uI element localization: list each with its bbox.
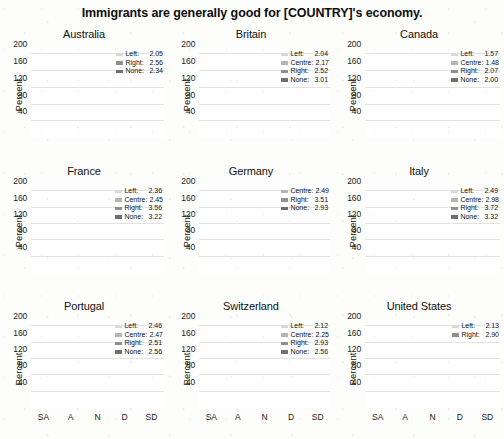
legend-item-none: None:2.56	[281, 348, 329, 357]
y-axis-tick: 160	[181, 328, 195, 338]
panel-title: Australia	[0, 28, 168, 40]
legend-item-centre: Centre:2.17	[281, 59, 329, 68]
legend-swatch-centre	[451, 61, 458, 65]
legend-value: 2.04	[314, 50, 328, 59]
legend-item-none: None:2.93	[281, 204, 329, 213]
legend-item-left: Left:2.13	[452, 322, 499, 331]
legend-item-none: None:2.56	[115, 348, 163, 357]
legend-value: 2.36	[148, 187, 162, 196]
y-axis-tick: 120	[347, 73, 361, 83]
legend-item-right: Right:2.56	[116, 59, 163, 68]
legend-swatch-left	[451, 190, 458, 194]
y-axis-tick: 80	[186, 360, 195, 370]
legend-item-right: Right:3.72	[451, 204, 499, 213]
legend-value: 2.56	[149, 59, 163, 68]
legend-label: Centre:	[124, 196, 147, 205]
y-axis-tick: 80	[18, 90, 27, 100]
legend-swatch-left	[452, 325, 459, 329]
legend-label: Right:	[461, 331, 483, 340]
legend-item-none: None:2.00	[451, 76, 499, 85]
y-axis-tick: 160	[347, 56, 361, 66]
y-axis-tick: 200	[181, 311, 195, 321]
legend-value: 2.17	[315, 59, 329, 68]
legend-label: Left:	[461, 322, 483, 331]
x-axis-tick: SD	[308, 412, 327, 422]
legend: Left:2.04Centre:2.17Right:2.52None:3.01	[281, 50, 329, 84]
y-axis-tick: 200	[347, 311, 361, 321]
legend-value: 2.05	[149, 50, 163, 59]
legend-item-centre: Centre:2.49	[281, 187, 329, 196]
y-axis-tick: 120	[347, 209, 361, 219]
legend-value: 2.46	[148, 322, 162, 331]
legend-item-none: None:2.34	[116, 67, 163, 76]
legend-swatch-centre	[115, 198, 122, 202]
panel-britain: BritainPercent4080120160200SAANDSDLeft:2…	[168, 26, 334, 163]
legend-swatch-right	[115, 342, 122, 346]
legend-label: Right:	[460, 204, 482, 213]
legend-label: Left:	[125, 50, 147, 59]
legend-label: Right:	[290, 339, 312, 348]
legend-label: Centre:	[460, 59, 483, 68]
y-axis-tick: 160	[181, 56, 195, 66]
legend-value: 2.49	[315, 187, 329, 196]
panel-france: FrancePercent4080120160200SAANDSDLeft:2.…	[0, 163, 168, 298]
legend-swatch-left	[451, 53, 458, 57]
legend-value: 3.22	[148, 213, 162, 222]
x-axis-tick: SA	[202, 412, 221, 422]
y-axis-tick: 200	[13, 176, 27, 186]
legend-swatch-centre	[281, 333, 288, 337]
legend-label: Left:	[290, 50, 312, 59]
panel-germany: GermanyPercent4080120160200SAANDSDCentre…	[168, 163, 334, 298]
x-axis-tick: SA	[368, 412, 387, 422]
y-axis-tick: 160	[181, 193, 195, 203]
legend-label: None:	[124, 348, 146, 357]
legend-swatch-right	[451, 70, 458, 74]
legend-item-left: Left:2.05	[116, 50, 163, 59]
y-axis-tick: 40	[186, 377, 195, 387]
y-axis-tick: 120	[13, 344, 27, 354]
x-axis-tick: N	[255, 412, 274, 422]
legend-swatch-none	[116, 70, 123, 74]
legend-item-right: Right:2.52	[281, 67, 329, 76]
legend-label: Right:	[125, 59, 147, 68]
legend-swatch-none	[281, 350, 288, 354]
figure-title: Immigrants are generally good for [COUNT…	[0, 6, 504, 20]
panel-switzerland: SwitzerlandPercent4080120160200SAANDSDLe…	[168, 298, 334, 439]
legend-value: 2.56	[148, 348, 162, 357]
legend-value: 2.34	[149, 67, 163, 76]
x-axis: SAANDSD	[199, 412, 330, 422]
legend-swatch-centre	[281, 190, 288, 194]
y-axis-tick: 120	[13, 73, 27, 83]
y-axis-tick: 200	[13, 39, 27, 49]
legend-item-none: None:3.22	[115, 213, 163, 222]
x-axis-tick: N	[423, 412, 442, 422]
y-axis-tick: 40	[18, 377, 27, 387]
panel-portugal: PortugalPercent4080120160200SAANDSDLeft:…	[0, 298, 168, 439]
y-axis-tick: 200	[181, 39, 195, 49]
legend-value: 1.48	[485, 59, 499, 68]
legend-label: Left:	[460, 187, 482, 196]
legend-swatch-right	[116, 61, 123, 65]
legend-label: Centre:	[460, 196, 483, 205]
x-axis-tick: SD	[142, 412, 161, 422]
legend-item-centre: Centre:2.47	[115, 331, 163, 340]
legend-item-left: Left:2.12	[281, 322, 329, 331]
legend-label: Left:	[460, 50, 482, 59]
y-axis-tick: 40	[352, 106, 361, 116]
legend-item-centre: Centre:2.25	[281, 331, 329, 340]
legend-swatch-none	[451, 78, 458, 82]
y-axis-tick: 200	[347, 39, 361, 49]
x-axis-tick: A	[395, 412, 414, 422]
y-axis-tick: 40	[18, 242, 27, 252]
legend-label: Centre:	[124, 331, 147, 340]
legend-value: 2.25	[315, 331, 329, 340]
y-axis-tick: 40	[352, 242, 361, 252]
legend-label: None:	[460, 76, 482, 85]
x-axis-tick: N	[88, 412, 107, 422]
legend-label: Right:	[290, 196, 312, 205]
legend-label: Centre:	[290, 187, 313, 196]
y-axis-tick: 80	[352, 90, 361, 100]
legend-value: 3.01	[314, 76, 328, 85]
legend-item-right: Right:2.07	[451, 67, 499, 76]
panel-italy: ItalyPercent4080120160200SAANDSDLeft:2.4…	[334, 163, 504, 298]
